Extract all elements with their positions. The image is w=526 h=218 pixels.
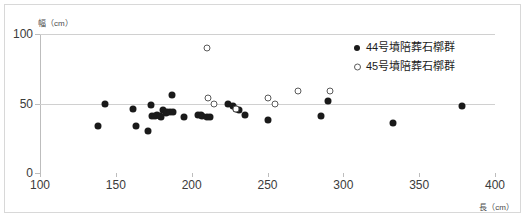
x-tick-label-350: 350 <box>409 178 429 192</box>
x-tick-label-250: 250 <box>257 178 277 192</box>
data-point <box>181 114 188 121</box>
x-tick-150 <box>116 173 117 177</box>
x-tick-label-300: 300 <box>333 178 353 192</box>
data-point <box>325 97 332 104</box>
x-tick-label-100: 100 <box>30 178 50 192</box>
x-tick-300 <box>343 173 344 177</box>
data-point <box>168 92 175 99</box>
data-point <box>170 108 177 115</box>
scatter-chart-figure: 幅（cm） 長（cm） 050100 100150200250300350400… <box>0 0 526 218</box>
data-point <box>264 117 271 124</box>
data-point <box>326 87 333 94</box>
chart-legend: 44号墳陪葬石槨群45号墳陪葬石槨群 <box>352 38 455 76</box>
x-axis-title: 長（cm） <box>479 201 514 212</box>
y-axis-title: 幅（cm） <box>38 17 73 28</box>
x-tick-200 <box>192 173 193 177</box>
data-point <box>132 122 139 129</box>
open-circle-icon <box>352 61 366 72</box>
data-point <box>94 122 101 129</box>
x-tick-label-200: 200 <box>182 178 202 192</box>
data-point <box>294 87 301 94</box>
gridline-y-100 <box>40 34 495 35</box>
x-tick-label-150: 150 <box>106 178 126 192</box>
data-point <box>317 113 324 120</box>
x-tick-250 <box>268 173 269 177</box>
data-point <box>144 128 151 135</box>
legend-item-label: 44号墳陪葬石槨群 <box>366 38 455 57</box>
data-point <box>203 44 210 51</box>
y-tick-100 <box>35 34 40 35</box>
data-point <box>232 106 239 113</box>
data-point <box>206 114 213 121</box>
data-point <box>129 106 136 113</box>
data-point <box>102 100 109 107</box>
legend-item-1[interactable]: 45号墳陪葬石槨群 <box>352 57 455 76</box>
data-point <box>272 100 279 107</box>
legend-item-0[interactable]: 44号墳陪葬石槨群 <box>352 38 455 57</box>
data-point <box>390 119 397 126</box>
y-tick-label-50: 50 <box>20 97 33 111</box>
data-point <box>264 94 271 101</box>
filled-circle-icon <box>352 42 366 53</box>
data-point <box>147 101 154 108</box>
data-point <box>241 111 248 118</box>
y-tick-label-100: 100 <box>13 27 33 41</box>
x-tick-100 <box>40 173 41 177</box>
data-point <box>211 100 218 107</box>
y-tick-50 <box>35 104 40 105</box>
x-tick-label-400: 400 <box>485 178 505 192</box>
data-point <box>458 103 465 110</box>
x-tick-350 <box>419 173 420 177</box>
x-tick-400 <box>495 173 496 177</box>
legend-item-label: 45号墳陪葬石槨群 <box>366 57 455 76</box>
